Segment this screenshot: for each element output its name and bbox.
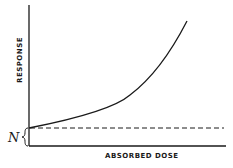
y-axis-label: RESPONSE — [16, 37, 24, 83]
x-axis-label: ABSORBED DOSE — [105, 152, 179, 160]
baseline-label: N — [8, 130, 19, 145]
baseline-brace-icon — [22, 128, 28, 146]
chart-canvas — [0, 0, 233, 168]
response-curve — [29, 21, 187, 128]
